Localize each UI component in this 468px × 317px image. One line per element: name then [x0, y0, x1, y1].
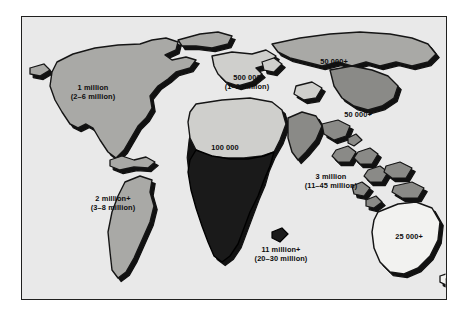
world-map	[0, 0, 468, 317]
region-south-asia	[288, 112, 322, 160]
region-south-america	[108, 176, 154, 278]
region-new-zealand	[440, 272, 458, 286]
region-greenland	[178, 32, 232, 48]
region-sub-saharan-africa	[188, 150, 274, 262]
region-north-africa	[188, 98, 286, 158]
world-map-svg	[0, 0, 468, 317]
map-figure: 1 million (2–6 million) 2 million+ (3–8 …	[0, 0, 468, 317]
region-madagascar	[272, 228, 288, 242]
region-europe	[212, 50, 282, 86]
